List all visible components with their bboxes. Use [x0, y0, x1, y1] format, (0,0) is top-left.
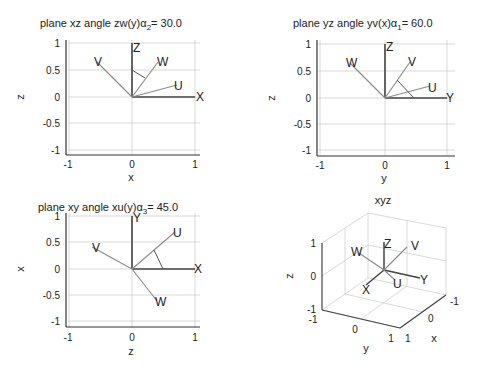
svg-text:1: 1: [405, 333, 411, 344]
vector-labels: Z Y X V W U: [351, 237, 428, 297]
svg-text:U: U: [393, 277, 402, 291]
plot-title: plane xz angle zw(y)α2= 30.0: [40, 17, 182, 32]
svg-text:1: 1: [192, 332, 198, 343]
x-axis-label: x: [431, 332, 437, 344]
angle-marker: [397, 80, 414, 98]
x-tick-labels: -1 0 1: [316, 160, 451, 171]
vector-U: [132, 232, 175, 269]
svg-text:V: V: [411, 239, 419, 253]
svg-text:-0.5: -0.5: [294, 119, 312, 130]
y-tick-labels: -1 0 1: [309, 314, 395, 344]
vector-labels: X Y U V W: [92, 211, 202, 309]
y-axis-label: y: [363, 342, 369, 354]
vector-W: [359, 253, 384, 270]
svg-text:1: 1: [305, 39, 311, 50]
x-tick-labels: -1 0 1: [64, 159, 199, 170]
svg-text:0: 0: [54, 264, 60, 275]
svg-text:-1: -1: [450, 296, 459, 307]
svg-text:1: 1: [310, 238, 316, 249]
y-axis-label: x: [14, 266, 26, 272]
svg-text:0: 0: [352, 324, 358, 335]
svg-text:0.5: 0.5: [46, 65, 60, 76]
vector-labels: X Z U V W: [94, 41, 204, 104]
svg-text:0: 0: [310, 271, 316, 282]
svg-text:1: 1: [54, 38, 60, 49]
vector-W: [132, 62, 158, 97]
svg-text:Z: Z: [384, 237, 391, 251]
svg-text:U: U: [174, 79, 183, 93]
plot-plane-xz: plane xz angle zw(y)α2= 30.0 1 0.5 0 -0.…: [14, 17, 204, 183]
svg-text:-0.5: -0.5: [43, 290, 61, 301]
y-tick-labels: 1 0.5 0 -0.5 -1: [43, 211, 61, 327]
svg-text:-1: -1: [302, 145, 311, 156]
x-axis-label: z: [128, 345, 134, 357]
svg-text:X: X: [194, 262, 202, 276]
plot-title: plane yz angle yv(x)α1= 60.0: [293, 17, 433, 32]
plot-plane-xy: plane xy angle xu(y)α3= 45.0 1 0.5 0 -0.…: [14, 201, 202, 357]
svg-text:W: W: [346, 56, 358, 70]
svg-text:X: X: [362, 283, 370, 297]
vector-Y: [384, 270, 420, 278]
vector-U: [132, 85, 177, 97]
svg-text:-1: -1: [316, 160, 325, 171]
svg-text:1: 1: [54, 211, 60, 222]
svg-text:V: V: [94, 55, 102, 69]
svg-text:1: 1: [444, 160, 450, 171]
x-axis-label: y: [381, 172, 387, 184]
svg-text:0: 0: [382, 160, 388, 171]
svg-text:0: 0: [305, 93, 311, 104]
svg-text:0.5: 0.5: [297, 66, 311, 77]
svg-text:0: 0: [54, 92, 60, 103]
x-axis-line: [400, 295, 446, 328]
z-axis-label: z: [283, 273, 295, 279]
y-tick-labels: 1 0.5 0 -0.5 -1: [294, 39, 312, 156]
svg-text:X: X: [196, 90, 204, 104]
svg-text:-1: -1: [309, 314, 318, 325]
y-axis-label: z: [265, 95, 277, 101]
vector-labels: Y Z U V W: [346, 40, 454, 105]
svg-text:-1: -1: [64, 332, 73, 343]
z-tick-labels: 1 0 -1: [307, 238, 316, 315]
y-axis-label: z: [14, 94, 26, 100]
svg-text:0: 0: [129, 159, 135, 170]
svg-text:U: U: [173, 226, 182, 240]
svg-text:-0.5: -0.5: [43, 118, 61, 129]
vector-V: [97, 62, 132, 97]
svg-text:Z: Z: [133, 41, 140, 55]
svg-text:0.5: 0.5: [46, 237, 60, 248]
angle-marker: [154, 250, 163, 269]
svg-text:Y: Y: [420, 273, 428, 287]
svg-text:W: W: [157, 55, 169, 69]
svg-text:1: 1: [388, 333, 394, 344]
y-tick-labels: 1 0.5 0 -0.5 -1: [43, 38, 61, 156]
plot-title: xyz: [375, 194, 392, 206]
x-axis-label: x: [128, 171, 134, 183]
plot-xyz-3d: xyz 1 0 -1 -1 0 1: [283, 194, 459, 354]
svg-text:0: 0: [428, 313, 434, 324]
svg-text:W: W: [155, 295, 167, 309]
y-axis-line: [322, 310, 400, 328]
plot-plane-yz: plane yz angle yv(x)α1= 60.0 1 0.5 0 -0.…: [265, 17, 455, 184]
svg-text:Y: Y: [133, 211, 141, 225]
svg-text:U: U: [428, 81, 437, 95]
svg-text:Z: Z: [386, 40, 393, 54]
svg-text:V: V: [92, 241, 100, 255]
svg-text:-1: -1: [51, 316, 60, 327]
vector-W: [132, 269, 157, 301]
svg-text:V: V: [408, 55, 416, 69]
svg-text:-1: -1: [51, 145, 60, 156]
svg-text:-1: -1: [64, 159, 73, 170]
x-tick-labels: -1 0 1: [64, 332, 199, 343]
svg-text:0: 0: [129, 332, 135, 343]
svg-text:1: 1: [192, 159, 198, 170]
svg-text:Y: Y: [446, 91, 454, 105]
svg-text:W: W: [351, 245, 363, 259]
angle-marker: [132, 70, 145, 78]
figure: plane xz angle zw(y)α2= 30.0 1 0.5 0 -0.…: [0, 0, 487, 369]
